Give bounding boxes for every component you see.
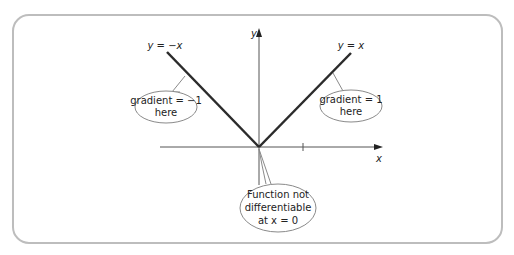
bottom-callout-line1: Function not	[247, 189, 309, 200]
left-callout-line2: here	[155, 107, 178, 118]
bottom-callout-line3: at x = 0	[258, 215, 298, 226]
diagram-canvas: y x y = −x y = x gradient = −1 here grad…	[0, 0, 514, 255]
right-callout-line2: here	[340, 106, 363, 117]
x-axis-label: x	[375, 153, 382, 164]
right-callout-line1: gradient = 1	[319, 94, 382, 105]
right-line-label: y = x	[337, 40, 365, 51]
left-line-label: y = −x	[147, 40, 183, 51]
left-callout-line1: gradient = −1	[130, 95, 202, 106]
bottom-callout-line2: differentiable	[245, 202, 312, 213]
y-axis-label: y	[250, 28, 258, 39]
